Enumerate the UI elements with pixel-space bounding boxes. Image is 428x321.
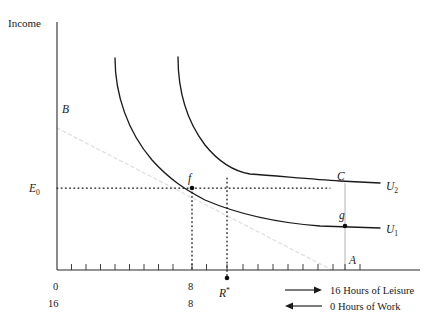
point-label-c: C [337,170,345,182]
e0-axis-label: E0 [28,182,40,197]
x-axis-ticks [72,264,361,270]
reservation-wage-label: R* [218,286,230,299]
x-tick-label-bottom-16: 16 [48,298,59,309]
point-label-g: g [339,209,345,222]
point-marker-f [190,186,195,191]
right-arrow-icon [285,287,322,294]
point-label-f: f [188,172,193,185]
point-marker-g [343,224,348,229]
y-axis-label: Income [8,17,41,29]
curve-label-u1: U1 [386,223,398,238]
budget-constraint-line [57,128,332,270]
indifference-curve-u2 [178,57,380,183]
x-tick-label-bottom-8: 8 [188,298,193,309]
curve-label-u2: U2 [386,180,398,195]
indifference-curve-u1 [115,58,380,228]
labor-leisure-chart: Income B E0 f C g A U2 U1 R* 0 8 16 8 16… [0,0,428,321]
left-arrow-icon [285,303,322,310]
budget-line-label: B [62,103,69,115]
point-marker-r-star [225,276,230,281]
x-tick-label-top-0: 0 [53,281,58,292]
annotation-work: 0 Hours of Work [330,301,401,312]
x-tick-label-top-8: 8 [188,281,193,292]
point-label-a: A [348,254,357,266]
annotation-leisure: 16 Hours of Leisure [330,285,415,296]
